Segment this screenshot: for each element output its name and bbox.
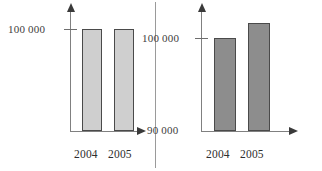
- left-x-axis-line: [70, 131, 138, 132]
- right-y-axis-arrow-up-icon: [198, 3, 206, 12]
- left-category-label-2004: 2004: [74, 148, 98, 160]
- right-bar-2004: [214, 38, 236, 131]
- left-y-tick-100000: [64, 29, 77, 30]
- left-bar-2005: [114, 29, 134, 131]
- left-y-axis-line: [70, 12, 71, 132]
- right-category-label-2005: 2005: [240, 148, 264, 160]
- left-bar-2004: [82, 29, 102, 131]
- left-y-tick-label-100000: 100 000: [8, 23, 45, 35]
- left-x-axis-arrow-right-icon: [137, 127, 146, 135]
- chart-panel-left: 100 000 2004 2005: [0, 0, 155, 171]
- right-y-axis-line: [201, 12, 202, 132]
- chart-panel-right: 100 000 90 000 2004 2005: [156, 0, 322, 171]
- right-y-tick-label-90000: 90 000: [147, 124, 178, 136]
- left-category-label-2005: 2005: [108, 148, 132, 160]
- right-x-axis-arrow-right-icon: [289, 127, 298, 135]
- bar-chart-comparison-figure: 100 000 2004 2005 100 000 90 000 2004 20…: [0, 0, 322, 171]
- right-x-axis-line: [201, 131, 290, 132]
- right-y-tick-label-100000: 100 000: [142, 32, 179, 44]
- right-y-tick-100000: [195, 38, 208, 39]
- left-y-axis-arrow-up-icon: [67, 3, 75, 12]
- right-category-label-2004: 2004: [206, 148, 230, 160]
- right-bar-2005: [248, 23, 270, 131]
